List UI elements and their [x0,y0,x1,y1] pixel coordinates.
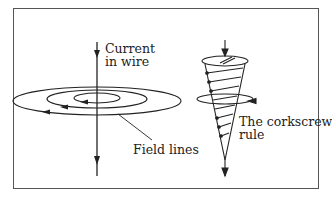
corkscrew-icon [197,40,256,176]
current-label-line2: in wire [105,55,149,68]
current-arrow-bottom-icon [94,156,100,165]
corkscrew-label-line2: rule [239,128,264,141]
wire [94,42,100,176]
field-lines-label: Field lines [133,143,199,156]
field-lines-pointer [118,114,152,140]
current-arrow-top-icon [94,50,100,58]
